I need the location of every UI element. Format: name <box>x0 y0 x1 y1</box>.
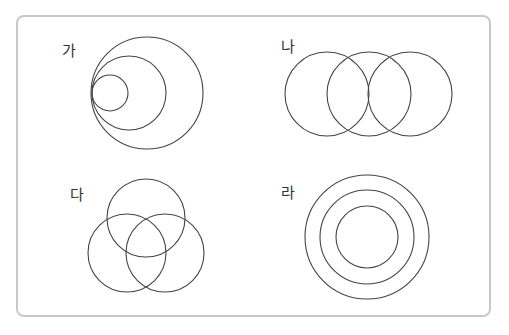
panel-ga: 가 <box>62 37 203 149</box>
da-circle-bottom-right <box>126 214 204 292</box>
panel-da: 다 <box>70 179 204 292</box>
ra-circle-outer <box>305 175 429 299</box>
panel-label-ra: 라 <box>281 184 295 202</box>
ra-circle-middle <box>320 190 414 284</box>
panel-ra: 라 <box>281 175 429 299</box>
ga-circle-large <box>91 37 203 149</box>
ga-circle-small <box>92 75 128 111</box>
na-circle-right <box>368 52 452 136</box>
panel-label-ga: 가 <box>62 42 76 60</box>
da-circle-bottom-left <box>88 214 166 292</box>
panel-label-na: 나 <box>281 38 295 56</box>
circle-diagrams: 가 나 다 라 <box>0 0 509 335</box>
panel-label-da: 다 <box>70 186 84 204</box>
da-circle-top <box>107 179 185 257</box>
ga-circle-medium <box>92 56 166 130</box>
ra-circle-inner <box>336 206 398 268</box>
panel-na: 나 <box>281 38 452 136</box>
